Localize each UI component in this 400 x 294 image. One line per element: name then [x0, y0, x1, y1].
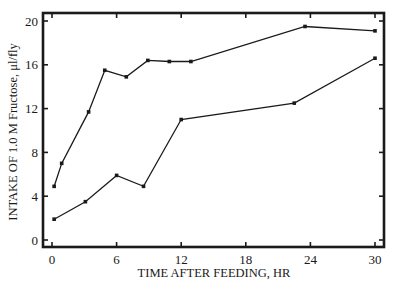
x-tick-label: 24 — [304, 252, 318, 267]
data-point-marker — [52, 185, 56, 189]
data-point-marker — [124, 75, 128, 79]
data-point-marker — [146, 59, 150, 63]
data-point-marker — [179, 118, 183, 122]
y-tick-label: 16 — [25, 57, 39, 72]
series-upper — [52, 25, 376, 188]
x-axis-label: TIME AFTER FEEDING, HR — [138, 266, 291, 280]
plot-frame — [43, 13, 384, 247]
data-point-marker — [292, 101, 296, 105]
data-point-marker — [189, 60, 193, 64]
data-point-marker — [168, 60, 172, 64]
data-series — [52, 25, 376, 221]
data-point-marker — [60, 162, 64, 166]
series-line — [54, 27, 375, 187]
data-point-marker — [373, 56, 377, 60]
y-tick-label: 4 — [32, 189, 39, 204]
y-tick-label: 12 — [25, 101, 38, 116]
data-point-marker — [87, 110, 91, 114]
y-tick-label: 20 — [25, 14, 38, 29]
y-axis-label: INTAKE OF 1.0 M Fructose, μl/fly — [6, 42, 20, 220]
x-axis-ticks: 0612182430 — [49, 13, 382, 267]
x-tick-label: 18 — [239, 252, 252, 267]
plot-border — [43, 13, 384, 247]
data-point-marker — [303, 25, 307, 29]
x-tick-label: 30 — [369, 252, 382, 267]
data-point-marker — [373, 29, 377, 33]
data-point-marker — [52, 217, 56, 221]
data-point-marker — [84, 200, 88, 204]
x-tick-label: 0 — [49, 252, 56, 267]
data-point-marker — [142, 185, 146, 189]
x-tick-label: 6 — [113, 252, 120, 267]
y-tick-label: 0 — [32, 233, 39, 248]
y-tick-label: 8 — [32, 145, 39, 160]
x-tick-label: 12 — [175, 252, 188, 267]
line-chart: 0612182430 048121620 TIME AFTER FEEDING,… — [0, 0, 400, 294]
series-line — [54, 58, 375, 219]
data-point-marker — [115, 174, 119, 178]
data-point-marker — [103, 68, 107, 72]
